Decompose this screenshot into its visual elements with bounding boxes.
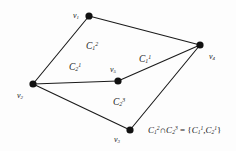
vertex-label-v2: v2 (17, 92, 23, 101)
graph-edge-v2-v5 (33, 81, 118, 84)
intersection-equation: C12∩C23 = {C11,C21} (148, 126, 221, 136)
graph-vertex-v3 (126, 126, 133, 133)
graph-edge-v5-v4 (118, 45, 200, 81)
face-label-c23: C23 (113, 98, 125, 108)
graph-vertex-v1 (85, 12, 92, 19)
graph-vertex-v5 (114, 77, 121, 84)
vertex-label-v1: v1 (73, 12, 79, 21)
graph-vertex-v4 (196, 41, 203, 48)
face-label-c21: C21 (69, 63, 81, 73)
face-label-c12: C12 (86, 42, 98, 52)
graph-vertex-v2 (29, 80, 36, 87)
graph-edge-v2-v1 (33, 16, 89, 84)
vertex-label-v5: v5 (110, 66, 116, 75)
graph-edge-v1-v4 (89, 16, 200, 45)
graph-diagram-figure: v1v2v3v4v5 C12C11C21C23 C12∩C23 = {C11,C… (0, 0, 236, 151)
edge-layer (33, 16, 200, 130)
vertex-label-v3: v3 (114, 136, 120, 145)
face-label-c11: C11 (139, 55, 151, 65)
vertex-label-v4: v4 (209, 53, 215, 62)
